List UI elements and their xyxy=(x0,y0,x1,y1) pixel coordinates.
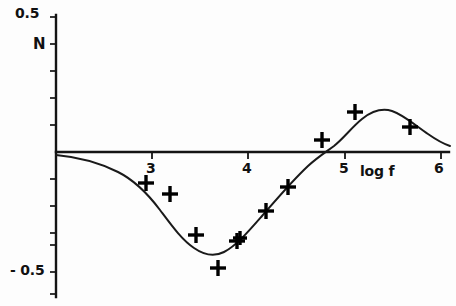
data-point-markers xyxy=(138,104,418,276)
data-point xyxy=(233,231,247,245)
x-axis-title: log f xyxy=(360,163,394,179)
x-tick-label-5: 5 xyxy=(339,160,349,176)
x-tick-label-6: 6 xyxy=(434,160,444,176)
data-point xyxy=(188,227,204,243)
x-tick-label-4: 4 xyxy=(242,160,252,176)
data-point xyxy=(347,104,363,120)
y-axis-title: N xyxy=(33,35,45,53)
y-axis-min-label: - 0.5 xyxy=(10,262,45,278)
y-axis-max-label: 0.5 xyxy=(15,5,39,21)
fitted-curve xyxy=(56,110,450,255)
chart-plot-area xyxy=(0,0,456,306)
data-point xyxy=(210,260,226,276)
data-point xyxy=(314,132,330,148)
data-point xyxy=(162,186,178,202)
data-point xyxy=(402,119,418,135)
chart-figure: 0.5 N - 0.5 3 4 5 6 log f xyxy=(0,0,456,306)
x-tick-label-3: 3 xyxy=(146,160,156,176)
